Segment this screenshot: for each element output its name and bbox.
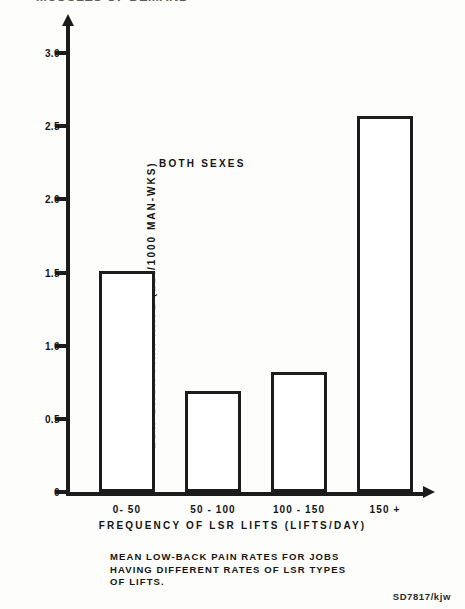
chart-annotation: BOTH SEXES — [159, 158, 245, 169]
y-tick-label: 2.0 — [45, 194, 60, 205]
bar — [185, 391, 241, 492]
y-tick-label: 3.0 — [45, 48, 60, 59]
y-tick-label: 1.5 — [45, 267, 60, 278]
figure-caption: MEAN LOW-BACK PAIN RATES FOR JOBS HAVING… — [110, 551, 410, 589]
y-axis-line — [66, 26, 70, 496]
bar — [357, 116, 413, 492]
caption-line: MEAN LOW-BACK PAIN RATES FOR JOBS — [110, 551, 410, 564]
x-category-label: 100 - 150 — [273, 504, 325, 515]
caption-line: HAVING DIFFERENT RATES OF LSR TYPES — [110, 564, 410, 577]
y-tick-label: 0 — [54, 487, 60, 498]
figure-container: LOW-BACK PAIN RATE (LBI/1000 MAN-WKS) 00… — [0, 0, 465, 609]
caption-line: OF LIFTS. — [110, 576, 410, 589]
y-tick-label: 0.5 — [45, 413, 60, 424]
x-axis-line — [66, 492, 424, 496]
bar — [99, 271, 155, 492]
x-category-label: 0- 50 — [113, 504, 141, 515]
y-tick-label: 1.0 — [45, 340, 60, 351]
x-category-label: 50 - 100 — [190, 504, 236, 515]
y-tick-label: 2.5 — [45, 121, 60, 132]
figure-code: SD7817/kjw — [393, 591, 451, 602]
bar — [271, 372, 327, 492]
x-axis-arrow-icon — [423, 486, 435, 498]
x-axis-title: FREQUENCY OF LSR LIFTS (LIFTS/DAY) — [0, 520, 465, 531]
y-axis-arrow-icon — [62, 14, 74, 26]
plot-area: 00.51.01.52.02.53.0 0- 5050 - 100100 - 1… — [66, 26, 430, 496]
x-category-label: 150 + — [370, 504, 401, 515]
